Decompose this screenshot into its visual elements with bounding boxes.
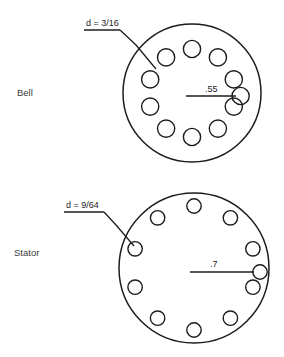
bell-bolt-holes: [142, 40, 243, 145]
bell-hole-10oclock: [142, 71, 159, 88]
bell-hole-12oclock: [183, 40, 200, 57]
bell-radius-dimension-text: .55: [205, 84, 218, 94]
stator-hole-note-text: d = 9/64: [66, 200, 99, 210]
bell-hole-1oclock: [209, 49, 226, 66]
bell-hole-note-text: d = 3/16: [86, 18, 119, 28]
bell-outer-circle: [123, 24, 261, 162]
engineering-drawing: .55 d = 3/16 .7: [0, 0, 284, 357]
bell-hole-5oclock: [209, 120, 226, 137]
part-label-stator: Stator: [14, 247, 39, 258]
stator-hole-10oclock: [128, 242, 142, 256]
stator-bolt-holes: [128, 199, 260, 337]
cad-canvas: .55 d = 3/16 .7: [0, 0, 284, 357]
stator-hole-6oclock: [187, 323, 201, 337]
bell-hole-11oclock: [158, 49, 175, 66]
bell-hole-6oclock: [183, 128, 200, 145]
part-label-bell: Bell: [17, 87, 33, 98]
stator-hole-12oclock: [187, 199, 201, 213]
stator-hole-5oclock: [223, 311, 237, 325]
stator-view: .7 d = 9/64: [64, 193, 269, 343]
stator-hole-8oclock: [128, 280, 142, 294]
stator-outer-circle: [119, 193, 269, 343]
stator-hole-7oclock: [150, 311, 164, 325]
bell-hole-2oclock: [225, 71, 242, 88]
bell-hole-7oclock: [158, 120, 175, 137]
stator-hole-3oclock-dimensioned: [253, 265, 267, 279]
stator-hole-4oclock: [246, 280, 260, 294]
bell-view: .55 d = 3/16: [84, 18, 261, 162]
bell-hole-8oclock: [142, 98, 159, 115]
stator-hole-1oclock: [223, 211, 237, 225]
stator-radius-dimension-text: .7: [210, 259, 218, 269]
stator-hole-11oclock: [150, 211, 164, 225]
stator-hole-2oclock: [246, 242, 260, 256]
